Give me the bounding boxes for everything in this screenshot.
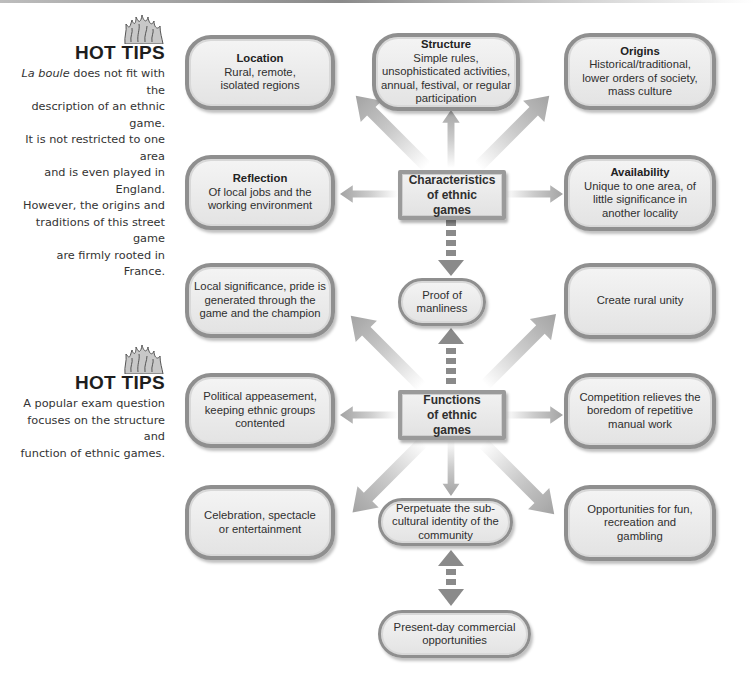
node-text: Celebration, spectacle or entertainment xyxy=(200,509,320,536)
node-text: Present-day commercial opportunities xyxy=(387,621,522,648)
tips-line: description of an ethnic game. xyxy=(15,99,165,132)
node-title: Reflection xyxy=(233,172,288,186)
node-political-appeasement: Political appeasement, keeping ethnic gr… xyxy=(185,373,335,448)
node-availability: Availability Unique to one area, of litt… xyxy=(564,155,716,231)
tips-line: function of ethnic games. xyxy=(15,446,165,463)
dashed-arrow-characteristics-to-proof xyxy=(438,220,464,276)
node-title: Availability xyxy=(610,166,669,180)
node-text: Rural, remote, isolated regions xyxy=(210,66,310,93)
node-opportunities: Opportunities for fun, recreation and ga… xyxy=(564,485,716,561)
center-title-line: of ethnic games xyxy=(408,188,496,218)
hot-tips-1: HOT TIPS La boule does not fit with the … xyxy=(15,14,165,281)
tips-line: and is even played in England. xyxy=(15,165,165,198)
center-title-line: of ethnic games xyxy=(408,408,496,438)
center-title-line: Characteristics xyxy=(409,173,496,188)
tips-line: does not fit with the xyxy=(70,67,165,97)
italic-term: La boule xyxy=(22,67,70,80)
node-perpetuate: Perpetuate the sub-cultural identity of … xyxy=(378,498,513,546)
node-text: Political appeasement, keeping ethnic gr… xyxy=(200,390,320,431)
node-title: Structure xyxy=(421,38,471,52)
flame-icon xyxy=(121,14,165,44)
tips-line: are firmly rooted in France. xyxy=(15,248,165,281)
node-text: Proof of manliness xyxy=(407,289,477,316)
tips-line: However, the origins and xyxy=(15,198,165,215)
node-title: Location xyxy=(236,52,283,66)
hot-tips-title: HOT TIPS xyxy=(15,44,165,62)
node-characteristics-center: Characteristics of ethnic games xyxy=(398,170,506,220)
node-text: Simple rules, unsophisticated activities… xyxy=(376,52,516,106)
tips-line: A popular exam question xyxy=(15,396,165,413)
arrow-to-structure xyxy=(442,110,459,168)
node-title: Origins xyxy=(620,45,660,59)
node-text: Of local jobs and the working environmen… xyxy=(198,186,323,213)
node-text: Perpetuate the sub-cultural identity of … xyxy=(381,502,511,543)
node-present-day: Present-day commercial opportunities xyxy=(378,610,531,658)
hot-tips-body: A popular exam question focuses on the s… xyxy=(15,396,165,462)
node-origins: Origins Historical/traditional, lower or… xyxy=(564,33,716,110)
flame-icon xyxy=(121,344,165,374)
tips-line: focuses on the structure and xyxy=(15,413,165,446)
node-create-rural-unity: Create rural unity xyxy=(564,263,716,339)
node-local-significance: Local significance, pride is generated t… xyxy=(185,263,335,338)
node-structure: Structure Simple rules, unsophisticated … xyxy=(372,33,520,111)
dashed-arrow-perpetuate-present-day xyxy=(438,550,464,606)
center-title-line: Functions xyxy=(423,393,480,408)
tips-line: It is not restricted to one area xyxy=(15,132,165,165)
node-proof-of-manliness: Proof of manliness xyxy=(398,278,486,326)
tips-line: traditions of this street game xyxy=(15,215,165,248)
node-text: Create rural unity xyxy=(597,294,684,308)
node-competition: Competition relieves the boredom of repe… xyxy=(564,373,716,449)
arrow-to-competition xyxy=(505,406,563,423)
arrow-to-reflection xyxy=(340,185,398,202)
arrow-to-political xyxy=(340,406,398,423)
node-text: Opportunities for fun, recreation and ga… xyxy=(580,503,700,544)
hot-tips-body: La boule does not fit with the descripti… xyxy=(15,66,165,281)
arrow-to-availability xyxy=(505,185,563,202)
node-text: Historical/traditional, lower orders of … xyxy=(580,58,700,99)
node-text: Local significance, pride is generated t… xyxy=(190,280,330,321)
node-celebration: Celebration, spectacle or entertainment xyxy=(185,485,335,560)
arrow-to-perpetuate xyxy=(443,440,460,496)
node-reflection: Reflection Of local jobs and the working… xyxy=(185,155,335,230)
hot-tips-title: HOT TIPS xyxy=(15,374,165,392)
hot-tips-2: HOT TIPS A popular exam question focuses… xyxy=(15,344,165,462)
node-text: Unique to one area, of little significan… xyxy=(573,180,708,221)
dashed-arrow-functions-to-proof xyxy=(438,328,464,384)
node-text: Competition relieves the boredom of repe… xyxy=(578,391,703,432)
arrow-to-rural-unity xyxy=(475,303,567,395)
node-location: Location Rural, remote, isolated regions xyxy=(185,35,335,110)
node-functions-center: Functions of ethnic games xyxy=(398,390,506,440)
